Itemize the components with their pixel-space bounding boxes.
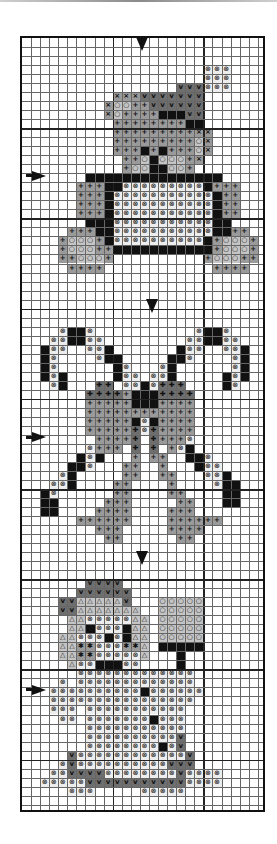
snowman-stitch: ⊗ [67, 787, 76, 796]
grid-line-vertical [212, 38, 213, 810]
teddy-bear-stitch [212, 227, 221, 236]
teddy-bear-stitch: ⊗ [194, 209, 203, 218]
teddy-bear-stitch: v [185, 92, 194, 101]
teddy-bear-stitch: + [95, 209, 104, 218]
candy-canes-with-bow-stitch: + [104, 417, 113, 426]
snowman-stitch: ○ [167, 633, 176, 642]
candy-canes-with-bow-stitch [76, 462, 85, 471]
teddy-bear-stitch: ⊗ [212, 74, 221, 83]
candy-canes-with-bow-stitch [58, 381, 67, 390]
teddy-bear-stitch: ○ [85, 254, 94, 263]
snowman-stitch: ⊗ [212, 769, 221, 778]
candy-canes-with-bow-stitch: ⊗ [49, 363, 58, 372]
grid-line-vertical [249, 38, 250, 810]
snowman-stitch: ○ [158, 624, 167, 633]
snowman-stitch [104, 633, 113, 642]
grid-line-horizontal [22, 516, 263, 517]
snowman-stitch: ⊗ [85, 742, 94, 751]
teddy-bear-stitch: + [149, 119, 158, 128]
candy-canes-with-bow-stitch: + [95, 525, 104, 534]
candy-canes-with-bow-stitch [40, 498, 49, 507]
candy-canes-with-bow-stitch: ✚ [85, 390, 94, 399]
grid-line-horizontal [22, 92, 263, 93]
teddy-bear-stitch [85, 173, 94, 182]
snowman-stitch: ⊗ [122, 678, 131, 687]
grid-line-horizontal [22, 318, 263, 319]
candy-canes-with-bow-stitch: + [104, 498, 113, 507]
grid-line-horizontal [22, 642, 263, 643]
teddy-bear-stitch: + [85, 209, 94, 218]
teddy-bear-stitch: ⊗ [131, 236, 140, 245]
grid-line-vertical [58, 38, 59, 810]
snowman-stitch: v [85, 778, 94, 787]
snowman-stitch: ⊗ [67, 696, 76, 705]
grid-line-horizontal [22, 390, 263, 391]
snowman-stitch: △ [131, 633, 140, 642]
teddy-bear-stitch: + [95, 236, 104, 245]
snowman-stitch: ⊗ [149, 733, 158, 742]
grid-line-horizontal [22, 705, 263, 706]
snowman-stitch [194, 642, 203, 651]
teddy-bear-stitch [149, 173, 158, 182]
grid-line-horizontal [22, 354, 263, 355]
snowman-stitch: ⊗ [40, 778, 49, 787]
snowman-stitch: ⊗ [131, 733, 140, 742]
teddy-bear-stitch: + [85, 227, 94, 236]
snowman-stitch: △ [76, 606, 85, 615]
candy-canes-with-bow-stitch: ⊗ [49, 336, 58, 345]
grid-line-horizontal [22, 633, 263, 634]
candy-canes-with-bow-stitch: ⊗ [140, 417, 149, 426]
candy-canes-with-bow-stitch: + [167, 435, 176, 444]
candy-canes-with-bow-stitch: + [185, 507, 194, 516]
snowman-stitch [185, 642, 194, 651]
teddy-bear-stitch: ○ [167, 155, 176, 164]
candy-canes-with-bow-stitch: ✚ [95, 381, 104, 390]
snowman-stitch: ⊗ [140, 769, 149, 778]
top-edge-bar [0, 0, 277, 2]
snowman-stitch: ⊗ [76, 787, 85, 796]
candy-canes-with-bow-stitch: + [158, 417, 167, 426]
grid-line-horizontal [22, 273, 263, 274]
snowman-stitch: ⊗ [176, 705, 185, 714]
candy-canes-with-bow-stitch: + [194, 516, 203, 525]
snowman-stitch: v [122, 778, 131, 787]
teddy-bear-stitch: ⊗ [122, 200, 131, 209]
grid-line-horizontal [22, 417, 263, 418]
candy-canes-with-bow-stitch [231, 498, 240, 507]
snowman-stitch: v [58, 597, 67, 606]
teddy-bear-stitch [104, 173, 113, 182]
snowman-stitch: ⊗ [76, 751, 85, 760]
grid-line-horizontal [22, 805, 263, 806]
teddy-bear-stitch: ○ [76, 245, 85, 254]
candy-canes-with-bow-stitch: + [167, 480, 176, 489]
teddy-bear-stitch: ⊗ [158, 236, 167, 245]
teddy-bear-stitch: ○ [67, 245, 76, 254]
snowman-stitch: ⊗ [122, 615, 131, 624]
teddy-bear-stitch: ○ [194, 146, 203, 155]
teddy-bear-stitch: + [212, 264, 221, 273]
teddy-bear-stitch: v [185, 110, 194, 119]
grid-line-horizontal [22, 245, 263, 246]
grid-line-horizontal [22, 751, 263, 752]
candy-canes-with-bow-stitch [167, 354, 176, 363]
candy-canes-with-bow-stitch [67, 471, 76, 480]
teddy-bear-stitch: + [249, 254, 258, 263]
snowman-stitch: ⊗ [104, 651, 113, 660]
teddy-bear-stitch [158, 164, 167, 173]
teddy-bear-stitch: + [167, 137, 176, 146]
grid-line-horizontal [22, 137, 263, 138]
candy-canes-with-bow-stitch: ✚ [131, 435, 140, 444]
teddy-bear-stitch: × [122, 92, 131, 101]
candy-canes-with-bow-stitch: ⊗ [212, 462, 221, 471]
teddy-bear-stitch: ⊗ [222, 74, 231, 83]
teddy-bear-stitch [95, 227, 104, 236]
grid-line-horizontal [22, 615, 263, 616]
grid-line-horizontal [22, 128, 263, 130]
candy-canes-with-bow-stitch: + [167, 525, 176, 534]
teddy-bear-stitch [194, 173, 203, 182]
grid-line-horizontal [22, 264, 263, 265]
teddy-bear-stitch: + [67, 264, 76, 273]
snowman-stitch: ⊗ [176, 751, 185, 760]
teddy-bear-stitch [185, 119, 194, 128]
snowman-stitch: ⊗ [67, 778, 76, 787]
